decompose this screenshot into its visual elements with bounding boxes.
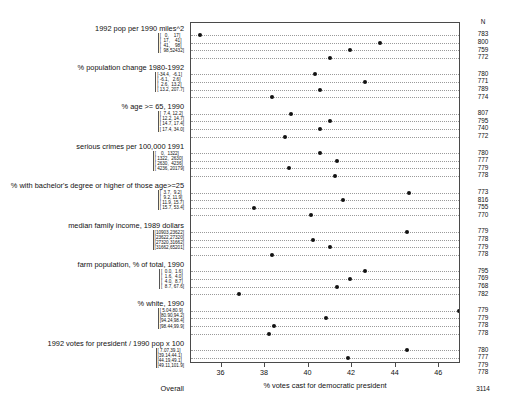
data-point	[346, 356, 350, 360]
row-gridline	[191, 311, 459, 312]
n-value: 777	[468, 156, 498, 163]
data-point	[328, 56, 332, 60]
x-tick	[308, 363, 309, 367]
x-tick	[395, 363, 396, 367]
n-value: 780	[468, 149, 498, 156]
n-value: 789	[468, 85, 498, 92]
group-title: 1992 pop per 1990 miles^2	[95, 25, 184, 33]
data-point	[270, 253, 274, 257]
group-label: % white, 1990[ 5.04,80.9][80.90,94.2][94…	[138, 300, 184, 331]
row-gridline	[191, 58, 459, 59]
data-point	[311, 238, 315, 242]
data-point	[309, 213, 313, 217]
row-gridline	[191, 334, 459, 335]
n-value: 778	[468, 250, 498, 257]
n-value: 783	[468, 30, 498, 37]
interval-bracket: [94.24,98.4]	[160, 318, 184, 323]
row-gridline	[191, 247, 459, 248]
n-value: 778	[468, 329, 498, 336]
data-point	[333, 174, 337, 178]
group-label: 1992 pop per 1990 miles^2[ 0, 17][ 17, 4…	[95, 25, 184, 56]
row-gridline	[191, 240, 459, 241]
interval-bracket: [49.11,101.9]	[158, 363, 184, 368]
group-interval-brackets: [ 3.7, 9.2][ 9.2, 11.9][ 11.9, 15.7][ 15…	[158, 190, 184, 210]
group-title: serious crimes per 100,000 1991	[76, 143, 184, 151]
data-point	[318, 151, 322, 155]
data-point	[289, 112, 293, 116]
data-point	[252, 206, 256, 210]
dot-plot-chart: 1992 pop per 1990 miles^2[ 0, 17][ 17, 4…	[0, 0, 523, 409]
x-tick	[264, 363, 265, 367]
group-label: % population change 1980-1992[-34.4, -6.…	[78, 64, 184, 95]
data-point	[270, 95, 274, 99]
data-point	[237, 292, 241, 296]
n-value: 779	[468, 314, 498, 321]
interval-bracket: [ 98,52432]	[160, 48, 184, 53]
x-tick-label: 38	[252, 368, 276, 377]
row-gridline	[191, 326, 459, 327]
n-value: 807	[468, 109, 498, 116]
n-value: 777	[468, 353, 498, 360]
group-label: 1992 votes for president / 1990 pop x 10…	[48, 340, 184, 371]
row-gridline	[191, 161, 459, 162]
group-title: % white, 1990	[138, 300, 184, 308]
row-gridline	[191, 114, 459, 115]
data-point	[198, 33, 202, 37]
x-tick-label: 36	[209, 368, 233, 377]
row-gridline	[191, 232, 459, 233]
x-tick-label: 40	[296, 368, 320, 377]
row-gridline	[191, 271, 459, 272]
interval-bracket: [ 13.2, 207.7]	[157, 87, 184, 92]
interval-bracket: [10903,23622]	[155, 230, 184, 235]
group-interval-brackets: [ 5.04,80.9][80.90,94.2][94.24,98.4][98.…	[158, 308, 184, 328]
n-value: 779	[468, 361, 498, 368]
n-value: 778	[468, 171, 498, 178]
x-tick-label: 42	[339, 368, 363, 377]
row-gridline	[191, 358, 459, 359]
row-gridline	[191, 287, 459, 288]
data-point	[348, 48, 352, 52]
data-point	[378, 41, 382, 45]
n-value: 780	[468, 70, 498, 77]
n-value: 3114	[468, 385, 498, 392]
data-point	[363, 269, 367, 273]
n-value: 773	[468, 188, 498, 195]
n-value: 778	[468, 368, 498, 375]
row-gridline	[191, 97, 459, 98]
data-point	[405, 348, 409, 352]
row-gridline	[191, 255, 459, 256]
n-value: 770	[468, 211, 498, 218]
data-point	[283, 135, 287, 139]
data-point	[272, 324, 276, 328]
group-interval-brackets: [ 0.0, 1.6][ 1.6, 4.0][ 4.0, 8.7][ 8.7, …	[159, 269, 184, 289]
data-point	[324, 316, 328, 320]
group-title: % age >= 65, 1990	[122, 103, 184, 111]
interval-bracket: [ 4236, 20179]	[155, 166, 184, 171]
data-point	[363, 80, 367, 84]
group-interval-brackets: [-34.4, -6.1][ -6.1, 2.6][ 2.6, 13.2][ 1…	[155, 72, 184, 92]
interval-bracket: [98.44,99.9]	[160, 324, 184, 329]
group-label: Overall	[161, 384, 184, 393]
row-gridline	[191, 350, 459, 351]
x-axis: 363840424446	[190, 363, 460, 383]
row-gridline	[191, 153, 459, 154]
row-gridline	[191, 129, 459, 130]
data-point	[313, 72, 317, 76]
group-label-column: 1992 pop per 1990 miles^2[ 0, 17][ 17, 4…	[0, 0, 188, 409]
x-tick-label: 46	[426, 368, 450, 377]
x-tick	[351, 363, 352, 367]
n-value: 779	[468, 227, 498, 234]
n-value: 769	[468, 274, 498, 281]
group-label: farm population, % of total, 1990[ 0.0, …	[78, 261, 184, 292]
row-gridline	[191, 294, 459, 295]
group-interval-brackets: [ 7.07,39.1][39.14,44.1][44.19,49.1][49.…	[156, 348, 184, 368]
group-title: median family income, 1989 dollars	[68, 222, 184, 230]
group-label: % with bachelor's degree or higher of th…	[11, 182, 184, 213]
plot-area	[190, 22, 460, 363]
row-gridline	[191, 121, 459, 122]
data-point	[341, 198, 345, 202]
n-value: 778	[468, 321, 498, 328]
row-gridline	[191, 90, 459, 91]
data-point	[318, 127, 322, 131]
group-title: % with bachelor's degree or higher of th…	[11, 182, 184, 190]
